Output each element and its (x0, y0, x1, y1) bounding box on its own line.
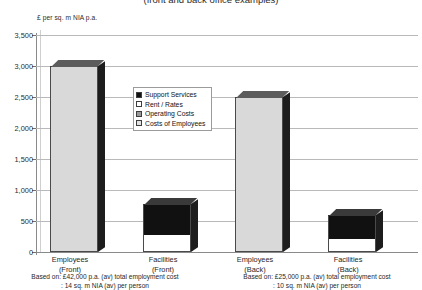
category-line1: Employees (32, 255, 108, 265)
gridline (36, 35, 418, 36)
bar-facilities-front[interactable] (143, 204, 191, 252)
category-line1: Employees (217, 255, 293, 265)
y-tick-label: 3,000 (15, 62, 34, 71)
legend-item-support-services[interactable]: Support Services (136, 90, 208, 100)
plot-area (36, 33, 418, 254)
legend-swatch-icon (136, 101, 142, 107)
legend: Support Services Rent / Rates Operating … (133, 87, 212, 131)
y-tick-label: 3,500 (15, 31, 34, 40)
legend-label: Support Services (145, 90, 197, 99)
bar-side-face (376, 210, 383, 252)
category-line1: Facilities (125, 255, 201, 265)
footnote-line2: : 14 sq. m NIA (av) per person (0, 281, 210, 290)
legend-swatch-icon (136, 92, 142, 98)
y-tick-label: 500 (21, 217, 33, 226)
bar-top-face (144, 198, 197, 205)
bar-segment-costs-of-employees (235, 97, 283, 252)
footnote-line2: : 10 sq. m NIA (av) per person (212, 281, 422, 290)
legend-item-costs-of-employees[interactable]: Costs of Employees (136, 119, 208, 129)
legend-swatch-icon (136, 120, 142, 126)
footnote-front: Based on: £42,000 p.a. (av) total employ… (0, 272, 210, 290)
legend-item-rent-rates[interactable]: Rent / Rates (136, 100, 208, 110)
bar-side-face (283, 92, 290, 252)
legend-item-operating-costs[interactable]: Operating Costs (136, 109, 208, 119)
category-line1: Facilities (310, 255, 386, 265)
bar-top-face (236, 91, 289, 98)
y-axis-label: £ per sq. m NIA p.a. (37, 14, 97, 21)
bar-segment-support-services (143, 204, 191, 235)
footnote-line1: Based on: £25,000 p.a. (av) total employ… (212, 272, 422, 281)
axis-baseline (36, 252, 418, 253)
chart-title: (front and back office examples) (0, 0, 422, 5)
y-tick-label: 1,500 (15, 155, 34, 164)
bar-employees-front[interactable] (50, 66, 98, 252)
bar-side-face (191, 199, 198, 252)
bar-segment-costs-of-employees (50, 66, 98, 252)
y-tick-label: 1,000 (15, 186, 34, 195)
y-axis-line-back (40, 30, 41, 252)
bar-side-face (98, 61, 105, 252)
y-tick-label: 2,500 (15, 93, 34, 102)
bar-segment-rent-rates (143, 235, 191, 252)
legend-label: Costs of Employees (145, 119, 205, 128)
y-tick-label: 2,000 (15, 124, 34, 133)
legend-label: Operating Costs (145, 109, 194, 118)
bar-top-face (329, 209, 382, 216)
legend-swatch-icon (136, 111, 142, 117)
bar-segment-rent-rates (328, 239, 376, 252)
bar-segment-support-services (328, 215, 376, 239)
bar-facilities-back[interactable] (328, 215, 376, 252)
footnote-line1: Based on: £42,000 p.a. (av) total employ… (0, 272, 210, 281)
legend-label: Rent / Rates (145, 100, 183, 109)
bar-top-face (51, 60, 104, 67)
bar-employees-back[interactable] (235, 97, 283, 252)
footnote-back: Based on: £25,000 p.a. (av) total employ… (212, 272, 422, 290)
